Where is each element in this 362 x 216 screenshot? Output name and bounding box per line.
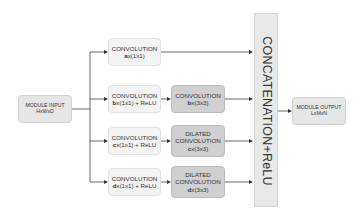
conv-kernel: x(1x1)	[128, 52, 145, 59]
conv-title: CONVOLUTION	[112, 92, 157, 99]
conv-kernel: x(3x3)	[191, 145, 208, 152]
conv-kernel: x(1x1) + ReLU	[116, 141, 156, 148]
concatenation-label: CONCATENATION+ReLU	[255, 14, 279, 208]
module-output-box: MODULE OUTPUT LxMxN	[292, 97, 346, 125]
conv-kernel: x(1x1) + ReLU	[116, 182, 156, 189]
branch-c-conv1x1: CONVOLUTION cx(1x1) + ReLU	[108, 127, 161, 155]
conv-title: CONVOLUTION	[175, 137, 220, 144]
branch-c-dilated-conv3x3: DILATED CONVOLUTION cx(3x3)	[171, 125, 225, 157]
branch-b-conv1x1: CONVOLUTION bx(1x1) + ReLU	[108, 85, 161, 113]
branch-a-conv1x1: CONVOLUTION ax(1x1)	[108, 38, 161, 66]
conv-title: CONVOLUTION	[112, 45, 157, 52]
conv-kernel: x(3x3)	[191, 99, 208, 106]
dilated-label: DILATED	[185, 130, 211, 137]
conv-title: CONVOLUTION	[175, 92, 220, 99]
branch-d-dilated-conv3x3: DILATED CONVOLUTION dx(3x3)	[171, 166, 225, 198]
module-input-dims: HxWxD	[36, 109, 54, 115]
conv-title: CONVOLUTION	[112, 175, 157, 182]
conv-title: CONVOLUTION	[175, 178, 220, 185]
conv-title: CONVOLUTION	[112, 134, 157, 141]
module-output-dims: LxMxN	[311, 111, 327, 117]
conv-kernel: x(3x3)	[191, 186, 208, 193]
conv-kernel: x(1x1) + ReLU	[116, 99, 156, 106]
branch-d-conv1x1: CONVOLUTION dx(1x1) + ReLU	[108, 168, 161, 196]
concatenation-relu-bar: CONCATENATION+ReLU	[254, 13, 278, 207]
module-input-box: MODULE INPUT HxWxD	[18, 95, 72, 123]
dilated-label: DILATED	[185, 171, 211, 178]
branch-b-conv3x3: CONVOLUTION bx(3x3)	[171, 85, 225, 113]
